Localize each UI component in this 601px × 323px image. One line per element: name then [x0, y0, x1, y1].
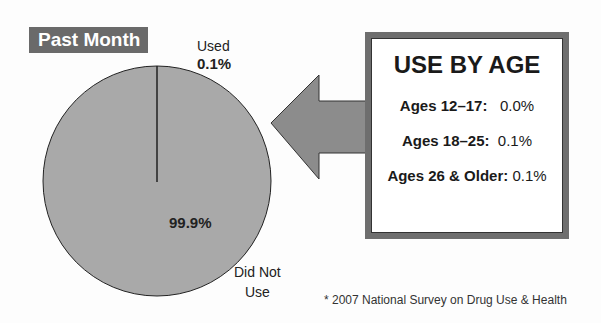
used-text: Used	[197, 38, 230, 54]
age-value: 0.0%	[500, 97, 534, 114]
use-by-age-box: USE BY AGE Ages 12–17: 0.0% Ages 18–25: …	[365, 32, 569, 239]
arrow-left-icon	[271, 75, 376, 179]
age-row: Ages 26 & Older: 0.1%	[372, 167, 562, 184]
age-row: Ages 12–17: 0.0%	[372, 97, 562, 114]
used-value: 0.1%	[197, 55, 231, 73]
did-not-line2: Use	[234, 282, 281, 302]
age-value: 0.1%	[498, 132, 532, 149]
age-label: Ages 12–17:	[400, 97, 488, 114]
source-footnote: * 2007 National Survey on Drug Use & Hea…	[324, 293, 567, 307]
age-label: Ages 18–25:	[402, 132, 490, 149]
used-label: Used 0.1%	[197, 37, 231, 73]
did-not-use-label: Did Not Use	[234, 262, 281, 302]
use-by-age-heading: USE BY AGE	[372, 51, 562, 79]
age-label: Ages 26 & Older:	[387, 167, 508, 184]
age-row: Ages 18–25: 0.1%	[372, 132, 562, 149]
did-not-use-value: 99.9%	[169, 214, 212, 231]
age-value: 0.1%	[512, 167, 546, 184]
did-not-line1: Did Not	[234, 262, 281, 282]
